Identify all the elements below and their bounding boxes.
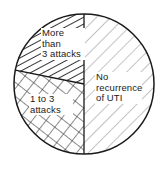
pie-chart-figure: More than 3 attacks 1 to 3 attacks No re… [0,0,166,170]
pie-label-more-than-3-attacks: More than 3 attacks [41,28,85,60]
pie-label-1-to-3-attacks: 1 to 3 attacks [29,94,73,115]
pie-label-no-recurrence-of-uti: No recurrence of UTI [95,72,142,104]
